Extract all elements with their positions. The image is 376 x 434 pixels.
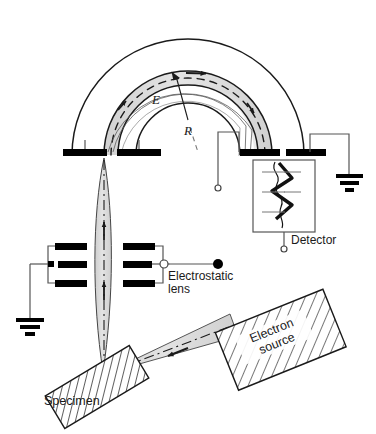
lens-electrode-right-middle (123, 261, 152, 268)
electrostatic-lens-label-line1: Electrostatic (168, 269, 233, 283)
exit-plate-left (240, 149, 280, 156)
terminal-inner-hemisphere[interactable] (215, 185, 221, 191)
figure-canvas: E R (0, 0, 376, 434)
field-symbol-label: E (151, 92, 160, 107)
lens-terminal-open[interactable] (160, 260, 168, 268)
lens-junction-left (48, 261, 54, 267)
lens-electrode-right-top (123, 243, 155, 250)
specimen-label: Specimen (44, 394, 100, 408)
figure-background (0, 0, 376, 434)
entrance-plate-left (63, 149, 107, 156)
lens-electrode-right-bottom (123, 280, 155, 287)
electrostatic-lens-label-line2: lens (168, 282, 190, 296)
radius-symbol-label: R (183, 123, 192, 138)
lens-electrode-left-middle (58, 261, 87, 268)
exit-plate-right (286, 149, 326, 156)
detector-label: Detector (291, 233, 336, 247)
terminal-lens[interactable] (213, 259, 223, 269)
terminal-detector[interactable] (281, 246, 287, 252)
lens-electrode-left-bottom (55, 280, 87, 287)
entrance-plate-right (117, 149, 161, 156)
hemispherical-analyzer-figure: E R (0, 0, 376, 434)
lens-electrode-left-top (55, 243, 87, 250)
